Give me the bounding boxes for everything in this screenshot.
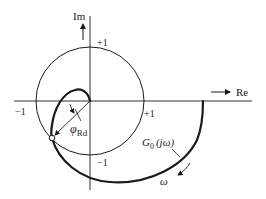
nyquist-diagram: Im Re +1 −1 +1 −1 φRd G0(jω) ω <box>0 0 266 199</box>
tick-neg-real: −1 <box>15 106 26 117</box>
crossover-point <box>49 135 55 141</box>
omega-label: ω <box>160 175 168 187</box>
curve-label-leader <box>172 149 180 157</box>
tick-pos-imag: +1 <box>97 37 108 48</box>
real-axis-label: Re <box>236 86 248 98</box>
phase-margin-arc-icon <box>70 104 74 113</box>
tick-pos-real: +1 <box>144 108 155 119</box>
tick-neg-imag: −1 <box>97 157 108 168</box>
imag-axis-label: Im <box>73 10 86 22</box>
phase-margin-label: φRd <box>70 122 88 138</box>
omega-direction-arrow-icon <box>178 163 190 175</box>
curve-label: G0(jω) <box>142 136 174 151</box>
